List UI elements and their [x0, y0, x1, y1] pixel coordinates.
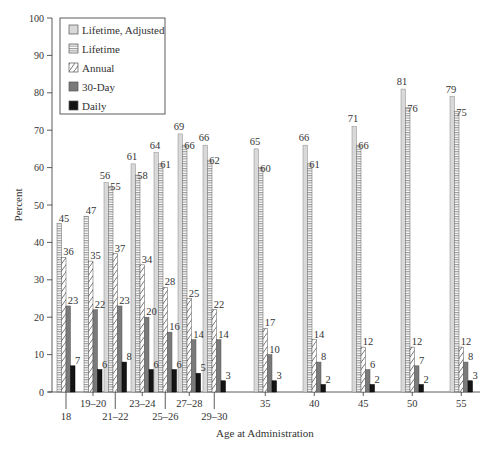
x-tick-label: 19–20 — [80, 398, 106, 409]
data-label: 23 — [119, 295, 130, 306]
data-label: 71 — [348, 113, 359, 124]
bars — [57, 89, 473, 392]
data-label: 55 — [110, 181, 121, 192]
y-tick-label: 50 — [34, 200, 44, 211]
bar-30-day — [217, 340, 222, 392]
bar-lifetime-adjusted — [178, 134, 183, 392]
data-label: 65 — [250, 136, 261, 147]
bar-daily — [149, 370, 154, 392]
y-tick-label: 30 — [34, 274, 44, 285]
data-label: 7 — [75, 355, 80, 366]
data-label: 61 — [127, 151, 138, 162]
bar-daily — [221, 381, 226, 392]
bar-30-day — [317, 362, 322, 392]
data-label: 6 — [153, 359, 158, 370]
bar-lifetime-adjusted — [203, 145, 208, 392]
data-label: 69 — [174, 121, 185, 132]
data-label: 17 — [265, 317, 276, 328]
data-label: 66 — [299, 132, 310, 143]
data-label: 79 — [446, 84, 457, 95]
legend-label: Lifetime, Adjusted — [82, 24, 165, 36]
bar-annual — [187, 299, 192, 393]
legend-swatch-lifetime-adjusted — [69, 25, 78, 34]
bar-annual — [361, 347, 366, 392]
data-label: 8 — [126, 351, 131, 362]
y-tick-label: 20 — [34, 312, 44, 323]
bar-lifetime-adjusted — [450, 97, 455, 392]
bar-annual — [212, 310, 217, 392]
bar-daily — [172, 370, 177, 392]
data-label: 23 — [68, 295, 79, 306]
data-label: 22 — [214, 299, 225, 310]
data-label: 14 — [314, 329, 325, 340]
bar-lifetime — [136, 175, 141, 392]
data-label: 58 — [137, 170, 148, 181]
x-tick-label: 27–28 — [176, 398, 202, 409]
legend-swatch-daily — [69, 101, 78, 110]
bar-30-day — [118, 306, 123, 392]
bar-daily — [370, 385, 375, 392]
y-tick-label: 60 — [34, 162, 44, 173]
bar-lifetime — [357, 145, 362, 392]
bar-annual — [410, 347, 415, 392]
legend-label: Daily — [82, 100, 107, 112]
data-label: 60 — [260, 163, 271, 174]
data-label: 28 — [165, 276, 176, 287]
data-label: 12 — [412, 336, 423, 347]
bar-lifetime-adjusted — [401, 89, 406, 392]
legend-label: Annual — [82, 62, 114, 74]
data-label: 8 — [321, 351, 326, 362]
bar-annual — [113, 254, 118, 392]
bar-30-day — [415, 366, 420, 392]
data-label: 2 — [374, 374, 379, 385]
bar-30-day — [168, 332, 173, 392]
bar-lifetime — [455, 112, 460, 393]
data-label: 36 — [63, 246, 74, 257]
data-label: 45 — [59, 213, 70, 224]
bar-lifetime — [183, 145, 188, 392]
data-label: 81 — [397, 76, 408, 87]
x-tick-label: 23–24 — [129, 398, 156, 409]
bar-lifetime — [109, 186, 114, 392]
data-label: 7 — [419, 355, 424, 366]
bar-annual — [263, 328, 268, 392]
bar-30-day — [93, 310, 98, 392]
bar-lifetime — [208, 160, 213, 392]
bar-daily — [419, 385, 424, 392]
bar-lifetime — [406, 108, 411, 392]
bar-30-day — [145, 317, 150, 392]
bar-annual — [89, 261, 94, 392]
bar-lifetime-adjusted — [154, 153, 159, 392]
data-label: 35 — [90, 250, 101, 261]
data-label: 14 — [218, 329, 229, 340]
x-tick-label: 25–26 — [152, 411, 178, 422]
bar-lifetime — [159, 164, 164, 392]
bar-lifetime-adjusted — [352, 126, 357, 392]
bar-30-day — [464, 362, 469, 392]
chart: 01020304050607080901001819–2021–2223–242… — [0, 0, 491, 453]
x-tick-label: 35 — [260, 398, 271, 409]
data-label: 6 — [176, 359, 181, 370]
data-label: 2 — [325, 374, 330, 385]
data-label: 66 — [358, 140, 369, 151]
bar-lifetime-adjusted — [131, 164, 136, 392]
bar-annual — [163, 287, 168, 392]
legend-swatch-lifetime — [69, 44, 78, 53]
x-tick-label: 45 — [358, 398, 369, 409]
data-label: 10 — [269, 344, 280, 355]
bar-daily — [98, 370, 103, 392]
data-label: 37 — [115, 243, 126, 254]
y-tick-label: 0 — [39, 387, 44, 398]
y-tick-label: 90 — [34, 50, 44, 61]
bar-lifetime-adjusted — [303, 145, 308, 392]
data-label: 66 — [199, 132, 210, 143]
y-axis-label: Percent — [12, 189, 24, 222]
data-label: 47 — [86, 205, 97, 216]
data-label: 66 — [184, 140, 195, 151]
bar-30-day — [192, 340, 197, 392]
data-label: 2 — [423, 374, 428, 385]
x-tick-label: 50 — [407, 398, 418, 409]
bar-daily — [122, 362, 127, 392]
data-label: 6 — [102, 359, 107, 370]
data-label: 64 — [150, 140, 161, 151]
